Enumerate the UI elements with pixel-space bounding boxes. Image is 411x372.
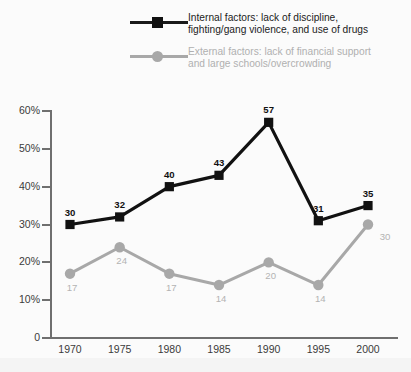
data-point-label: 17 [166,281,177,292]
data-point-label: 24 [116,255,127,266]
data-point-marker [313,280,323,290]
data-point-marker [263,257,273,267]
data-point-marker [164,268,174,278]
series-layer [0,0,411,372]
data-point-label: 20 [265,270,276,281]
data-point-label: 40 [164,168,175,179]
data-point-label: 14 [216,293,227,304]
chart-container: Internal factors: lack of discipline, fi… [0,0,411,372]
data-point-label: 17 [67,281,78,292]
data-point-marker [115,212,124,221]
data-point-marker [314,216,323,225]
data-point-label: 30 [380,230,391,241]
data-point-marker [114,242,124,252]
data-point-label: 35 [363,187,374,198]
data-point-label: 32 [114,198,125,209]
data-point-marker [264,118,273,127]
data-point-marker [165,182,174,191]
data-point-label: 57 [263,104,274,115]
data-point-marker [214,280,224,290]
series-line-external [70,225,368,286]
data-point-marker [65,268,75,278]
data-point-marker [214,171,223,180]
data-point-marker [363,219,373,229]
data-point-label: 14 [315,293,326,304]
data-point-marker [65,220,74,229]
data-point-marker [363,201,372,210]
data-point-label: 31 [313,202,324,213]
data-point-label: 43 [214,157,225,168]
data-point-label: 30 [65,206,76,217]
